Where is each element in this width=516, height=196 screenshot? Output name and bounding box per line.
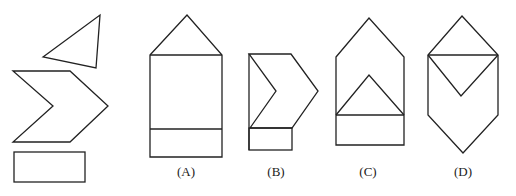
option-c-inner-triangle <box>336 75 404 115</box>
option-c-outline <box>336 18 404 145</box>
given-pieces <box>13 15 108 182</box>
rectangle-piece <box>14 152 85 182</box>
option-d-outline <box>428 16 498 153</box>
option-c[interactable]: (C) <box>336 18 404 179</box>
option-a[interactable]: (A) <box>150 15 222 179</box>
option-b-rectangle <box>249 128 292 150</box>
option-b-label: (B) <box>267 164 284 179</box>
option-a-label: (A) <box>177 164 195 179</box>
option-d[interactable]: (D) <box>428 16 498 179</box>
diagram-canvas: (A) (B) (C) (D) <box>0 0 516 196</box>
option-c-label: (C) <box>359 164 376 179</box>
option-d-label: (D) <box>454 164 472 179</box>
option-d-inverted-triangle <box>428 55 498 96</box>
triangle-piece <box>43 15 100 68</box>
chevron-piece <box>13 71 108 142</box>
option-a-outline <box>150 15 222 157</box>
option-b[interactable]: (B) <box>249 54 318 179</box>
option-b-chevron <box>249 54 318 128</box>
